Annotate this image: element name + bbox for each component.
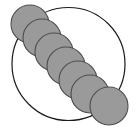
figure-container xyxy=(0,0,138,130)
geometric-diagram xyxy=(0,0,138,130)
disk-7-shape xyxy=(90,87,128,125)
